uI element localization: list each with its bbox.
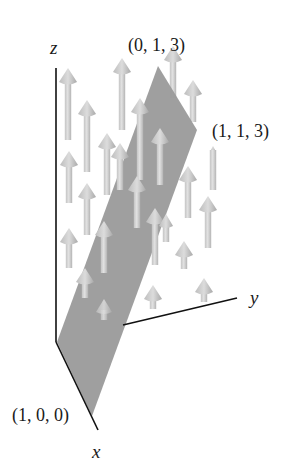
arrow-icon — [78, 183, 96, 235]
arrow-icon — [60, 228, 78, 268]
arrow-icon — [113, 58, 131, 130]
plane-surface — [57, 66, 197, 416]
arrow-icon — [78, 100, 96, 172]
arrow-icon — [175, 241, 193, 269]
y-axis — [123, 298, 237, 325]
arrow-icon — [199, 196, 217, 248]
arrow-icon — [179, 166, 197, 218]
point-label-0-1-3: (0, 1, 3) — [128, 36, 185, 54]
arrow-icon — [98, 133, 116, 195]
diagram-canvas — [0, 0, 288, 475]
point-label-1-0-0: (1, 0, 0) — [12, 406, 69, 424]
arrow-icon — [210, 146, 216, 190]
arrow-icon — [144, 285, 162, 309]
z-axis-label: z — [50, 38, 57, 57]
y-axis-label: y — [250, 288, 258, 307]
vector-field-diagram: z y x (0, 1, 3) (1, 1, 3) (1, 0, 0) — [0, 0, 288, 475]
arrow-icon — [59, 68, 77, 140]
x-axis-label: x — [92, 442, 100, 461]
arrow-icon — [60, 151, 78, 203]
arrow-icon — [195, 278, 213, 302]
point-label-1-1-3: (1, 1, 3) — [212, 122, 269, 140]
